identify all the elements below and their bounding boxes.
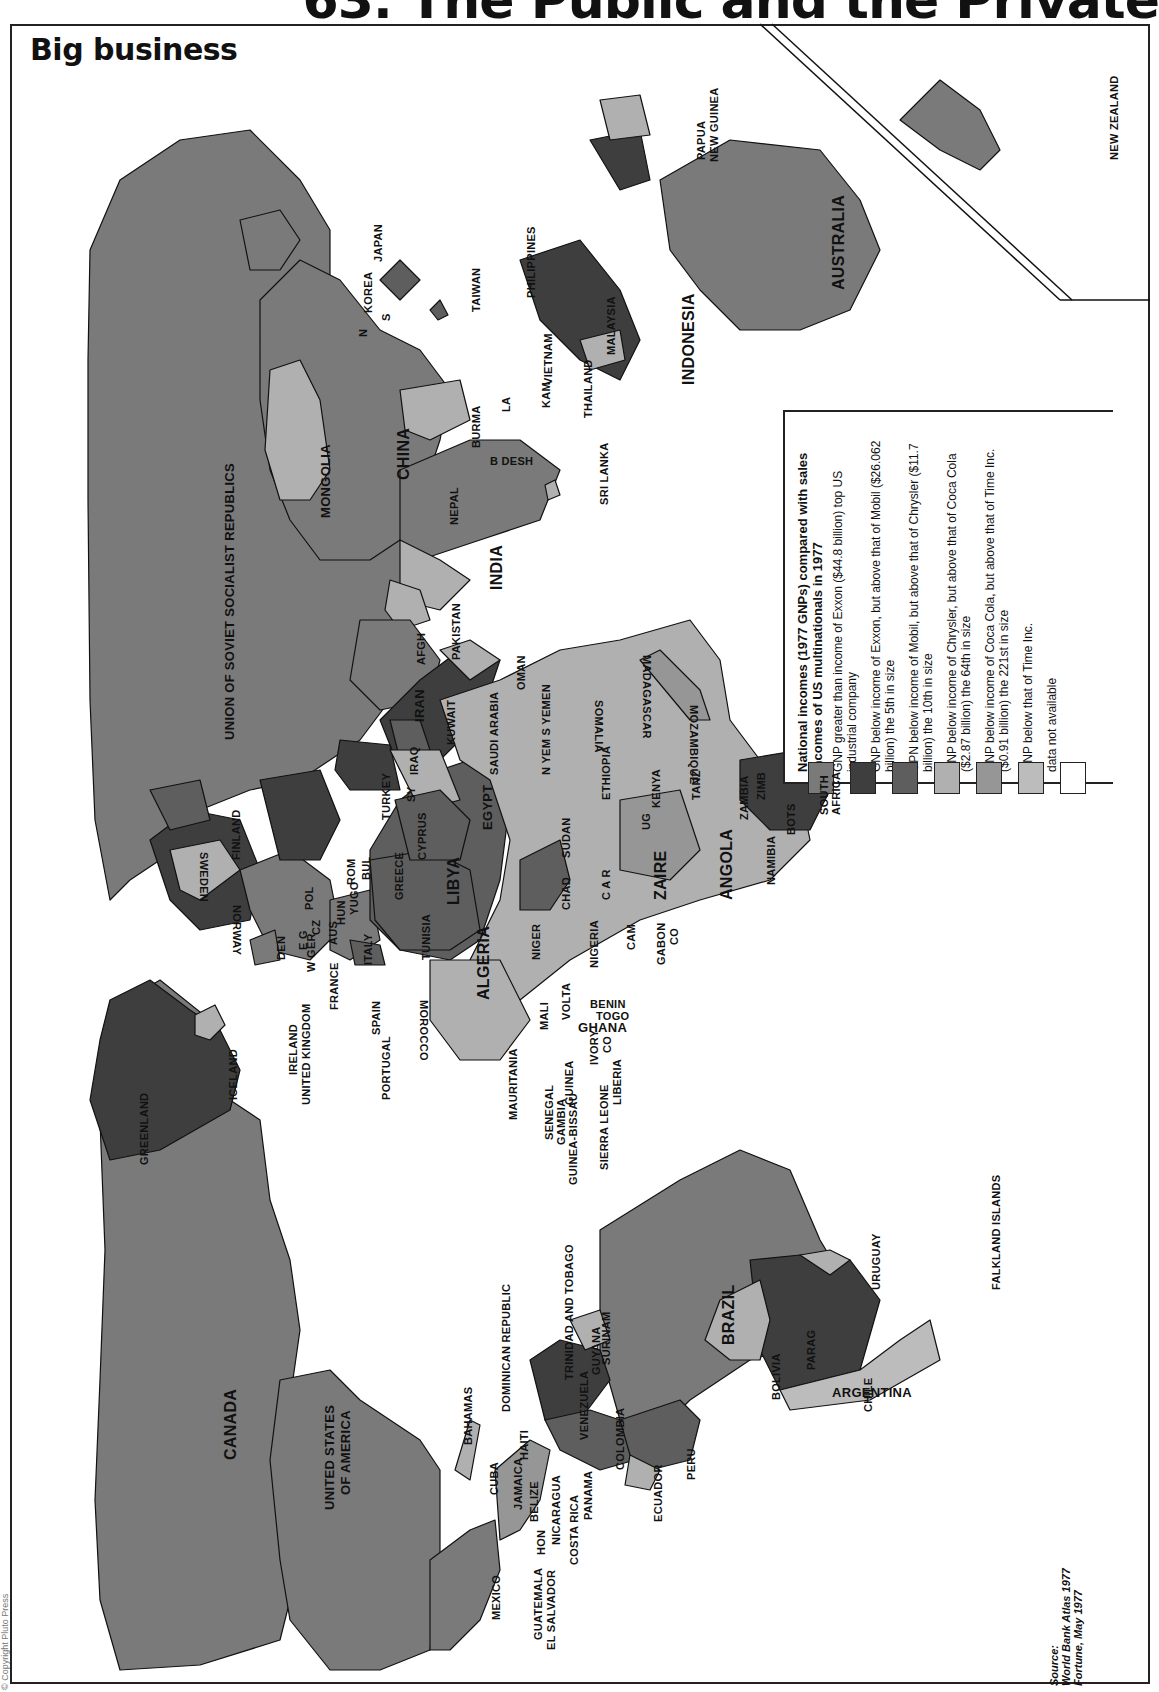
label-haiti: HAITI [518,1430,530,1460]
map-title: Big business [30,32,237,67]
label-hun: HUN [335,900,347,925]
label-sy: SY [405,787,417,802]
label-bahamas: BAHAMAS [462,1387,474,1445]
label-turkey: TURKEY [380,773,392,820]
label-italy: ITALY [362,934,374,965]
label-philippines: PHILIPPINES [525,226,537,298]
label-iran: IRAN [412,689,427,722]
label-jamaica: JAMAICA [512,1458,524,1510]
label-libya: LIBYA [445,857,463,905]
label-trinidad: TRINIDAD AND TOBAGO [563,1244,575,1380]
label-cam: CAM [625,924,637,950]
label-senegal: SENEGAL [543,1085,555,1140]
label-usa-1: UNITED STATES [322,1405,337,1510]
label-pakistan: PAKISTAN [450,603,462,660]
label-nigeria: NIGERIA [588,920,600,968]
label-namibia: NAMIBIA [765,836,777,885]
label-ivory-co: CO [601,1036,613,1053]
label-malaysia: MALAYSIA [605,296,617,355]
label-guatemala: GUATEMALA [532,1568,544,1640]
label-morocco: MOROCCO [418,1000,430,1061]
label-gambia: GAMBIA [555,1099,567,1145]
label-usa-2: OF AMERICA [338,1410,353,1495]
label-afgh: AFGH [415,633,427,665]
label-sudan: SUDAN [560,817,572,858]
legend-item: GNP below income of Coca Cola, but above… [983,426,1011,772]
legend-item: GNP greater than income of Exxon ($44.8 … [831,426,859,772]
label-japan: JAPAN [372,224,384,262]
label-hon: HON [535,1530,547,1555]
label-chad: CHAD [560,877,572,910]
label-mongolia: MONGOLIA [318,444,333,518]
label-finland: FINLAND [230,810,242,860]
label-co: CO [668,928,680,945]
label-australia: AUSTRALIA [830,195,848,290]
label-cyprus: CYPRUS [416,812,428,860]
label-lao: LA [500,397,512,412]
label-bots: BOTS [785,803,797,835]
label-mauritania: MAURITANIA [507,1048,519,1120]
label-ireland: IRELAND [287,1024,299,1075]
label-madagascar: MADAGASCAR [641,655,653,739]
label-el-salvador: EL SALVADOR [545,1570,557,1650]
label-china: CHINA [395,428,413,480]
label-angola: ANGOLA [718,829,736,900]
label-canada: CANADA [222,1389,240,1460]
label-iceland: ICELAND [227,1049,239,1100]
label-uruguay: URUGUAY [870,1233,882,1290]
label-thailand: THAILAND [582,359,594,418]
label-france: FRANCE [328,962,340,1010]
label-uk: UNITED KINGDOM [300,1004,312,1105]
label-ug: UG [640,813,652,830]
label-portugal: PORTUGAL [380,1036,392,1100]
label-zimb: ZIMB [755,772,767,800]
label-bul: BUL [360,856,372,880]
label-greenland: GREENLAND [138,1093,150,1165]
label-falklands: FALKLAND ISLANDS [990,1175,1002,1290]
legend-swatch [934,762,960,794]
label-ethiopia: ETHIOPIA [600,746,612,800]
label-vietnam: VIETNAM [542,333,554,385]
label-bdesh: B DESH [490,455,533,467]
label-nicaragua: NICARAGUA [550,1475,562,1545]
label-greece: GREECE [393,852,405,900]
label-colombia: COLOMBIA [614,1408,626,1470]
label-pol: POL [303,886,315,910]
label-brazil: BRAZIL [720,1285,738,1345]
label-mozambique: MOZAMBIQUE [688,705,700,784]
label-south-africa-2: AFRICA [830,772,842,815]
label-indonesia: INDONESIA [680,293,698,385]
label-saudi: SAUDI ARABIA [488,692,500,775]
label-kuwait: KUWAIT [445,700,457,745]
label-egypt: EGYPT [480,784,495,830]
label-zambia: ZAMBIA [738,775,750,820]
label-peru: PERU [685,1448,697,1480]
label-belize: BELIZE [528,1481,540,1522]
source-note: Source: World Bank Atlas 1977 Fortune, M… [1048,1568,1084,1686]
label-kenya: KENYA [650,769,662,808]
label-algeria: ALGERIA [475,926,493,1000]
legend-swatch [892,762,918,794]
label-taiwan: TAIWAN [470,268,482,312]
label-new-zealand: NEW ZEALAND [1108,75,1120,160]
label-tunisia: TUNISIA [420,914,432,960]
label-cuba: CUBA [488,1462,500,1495]
legend-swatch [1018,762,1044,794]
label-dominican-republic: DOMINICAN REPUBLIC [500,1284,512,1412]
label-yemen: N YEM S YEMEN [540,684,552,775]
legend-item: GNP below that of Time Inc. [1021,426,1035,772]
label-korea: KOREA [362,272,374,313]
label-togo: TOGO [596,1010,629,1022]
legend-swatch [1060,762,1086,794]
label-niger: NIGER [530,924,542,960]
label-iraq: IRAQ [408,746,420,775]
label-argentina: ARGENTINA [832,1385,912,1400]
label-zaire: ZAIRE [652,851,670,901]
label-panama: PANAMA [582,1471,594,1520]
label-korea-s: S [380,313,392,321]
label-car: C A R [600,869,612,900]
label-mexico: MEXICO [490,1575,502,1620]
label-guinea: GUINEA [563,1060,575,1105]
label-ecuador: ECUADOR [652,1464,664,1522]
legend-swatch [850,762,876,794]
